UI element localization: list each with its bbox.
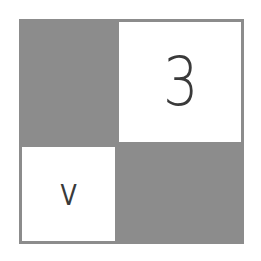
letter-v-label: V bbox=[60, 182, 76, 210]
two-by-two-grid: 3 V bbox=[19, 19, 244, 244]
digit-three-label: 3 bbox=[163, 48, 198, 116]
top-right-white-cell: 3 bbox=[119, 22, 241, 142]
bottom-left-white-cell: V bbox=[22, 147, 115, 241]
